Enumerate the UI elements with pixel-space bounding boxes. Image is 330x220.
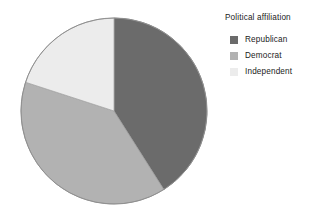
legend: Political affiliation Republican Democra… <box>224 13 330 80</box>
legend-label-independent: Independent <box>245 67 292 77</box>
legend-item-independent[interactable]: Independent <box>224 64 330 79</box>
legend-swatch-democrat <box>230 52 238 60</box>
legend-label-republican: Republican <box>245 35 287 45</box>
legend-title: Political affiliation <box>225 13 330 23</box>
legend-item-republican[interactable]: Republican <box>224 32 330 47</box>
legend-label-democrat: Democrat <box>245 51 282 61</box>
pie-chart-svg <box>0 0 215 220</box>
pie-chart-figure: Political affiliation Republican Democra… <box>0 0 330 220</box>
pie-chart-plot-area <box>0 0 215 220</box>
legend-swatch-republican <box>230 36 238 44</box>
legend-swatch-independent <box>230 68 238 76</box>
legend-item-democrat[interactable]: Democrat <box>224 48 330 63</box>
